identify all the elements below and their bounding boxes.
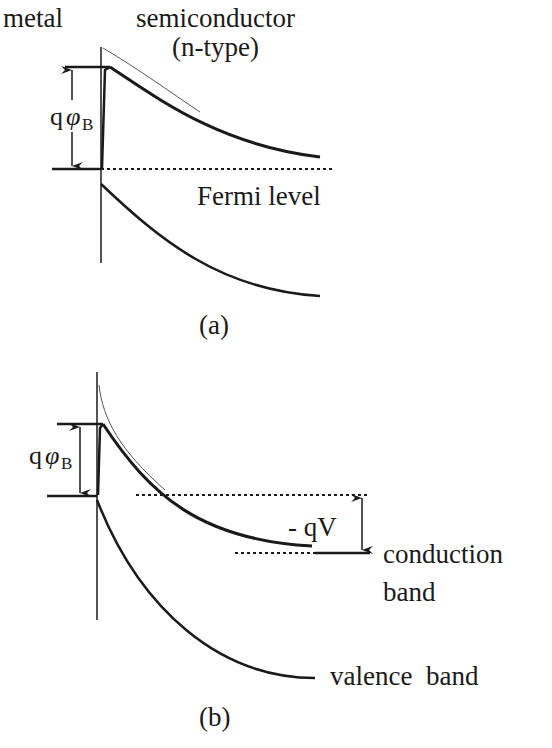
barrier-sub-label-b: B [61,454,72,473]
metal-label: metal [3,3,63,33]
conduction-label-line1: conduction [383,539,503,569]
n-type-label: (n-type) [172,32,259,62]
caption-b: (b) [199,702,230,732]
band-diagram: metal semiconductor (n-type) q φ B Fermi… [0,0,552,748]
barrier-wall-a [102,67,110,168]
barrier-q-label-a: q [50,102,63,131]
barrier-sub-label-a: B [82,115,93,134]
semiconductor-label: semiconductor [136,3,295,33]
barrier-q-label-b: q [29,441,42,470]
panel-b: q φ B - qV conduction band valence band … [29,372,503,732]
valence-band-label: valence band [330,661,479,691]
ideal-conduction-b [99,385,165,490]
barrier-phi-label-a: φ [66,102,80,131]
fermi-level-label: Fermi level [197,181,321,211]
barrier-wall-b [98,424,103,495]
conduction-band-b [103,424,312,546]
bias-label: - qV [288,512,337,542]
conduction-label-line2: band [383,577,436,607]
valence-band-b [97,500,315,678]
barrier-phi-label-b: φ [45,441,59,470]
conduction-band-a [110,67,320,157]
panel-a: metal semiconductor (n-type) q φ B Fermi… [3,3,335,340]
caption-a: (a) [199,310,229,340]
